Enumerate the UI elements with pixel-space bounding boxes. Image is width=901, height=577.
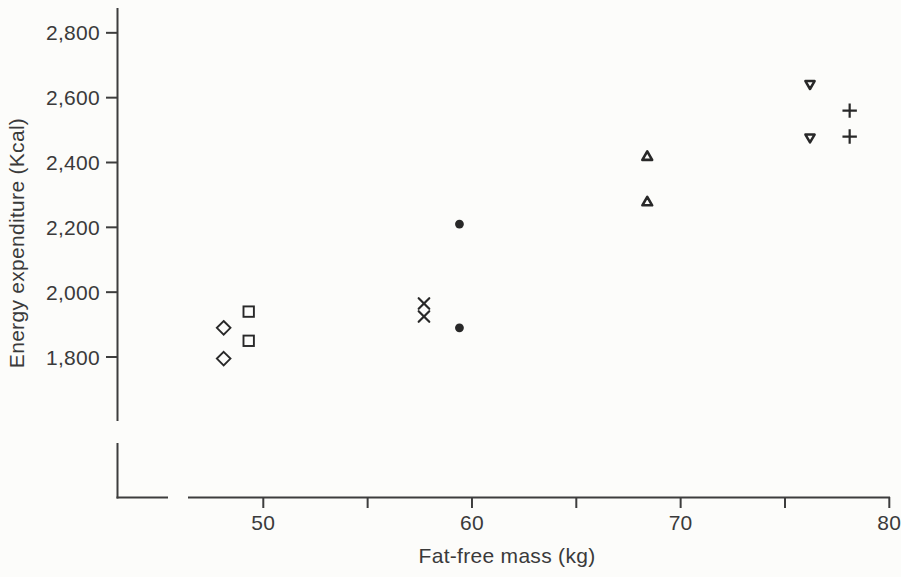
marker-plus xyxy=(842,129,856,143)
scatter-figure: 1,8002,0002,2002,4002,6002,80050607080 E… xyxy=(0,0,901,577)
marker-triangle-down xyxy=(805,81,814,89)
marker-plus xyxy=(842,103,856,117)
marker-diamond xyxy=(217,352,231,366)
x-tick-label: 60 xyxy=(460,511,484,534)
marker-filled-circle xyxy=(455,323,464,332)
marker-diamond xyxy=(217,321,231,335)
marker-x-cross xyxy=(419,311,430,322)
marker-triangle-up xyxy=(642,197,652,206)
x-tick-label: 50 xyxy=(251,511,275,534)
marker-square xyxy=(243,306,253,316)
y-tick-label: 2,400 xyxy=(46,151,100,174)
marker-triangle-up xyxy=(642,151,652,160)
y-tick-label: 2,800 xyxy=(46,21,100,44)
marker-triangle-down xyxy=(805,135,814,143)
x-tick-label: 70 xyxy=(669,511,693,534)
y-tick-label: 2,200 xyxy=(46,216,100,239)
y-tick-label: 2,000 xyxy=(46,281,100,304)
marker-x-cross xyxy=(419,298,430,309)
x-tick-label: 80 xyxy=(877,511,901,534)
marker-filled-circle xyxy=(455,220,464,229)
x-axis-title: Fat-free mass (kg) xyxy=(419,544,596,568)
y-tick-label: 2,600 xyxy=(46,86,100,109)
marker-square xyxy=(243,336,253,346)
scatter-plot-canvas: 1,8002,0002,2002,4002,6002,80050607080 xyxy=(0,0,901,577)
y-axis-title: Energy expenditure (Kcal) xyxy=(5,118,29,368)
y-tick-label: 1,800 xyxy=(46,346,100,369)
